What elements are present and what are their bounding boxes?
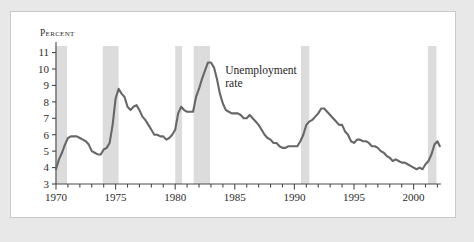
y-axis-tick-label: 9 [44, 79, 50, 91]
x-axis-tick-label: 1995 [343, 191, 366, 203]
series-annotation-line2: rate [225, 77, 242, 89]
recession-band [194, 46, 210, 184]
y-axis-tick-label: 3 [44, 178, 50, 190]
recession-band [428, 46, 437, 184]
y-axis-tick-label: 5 [44, 145, 50, 157]
x-axis-tick-label: 1990 [283, 191, 306, 203]
series-annotation-line1: Unemployment [225, 64, 297, 77]
x-axis-tick-label: 1985 [224, 191, 247, 203]
x-axis-tick-label: 2000 [403, 191, 426, 203]
x-axis-tick-label: 1970 [45, 191, 68, 203]
recession-band [301, 46, 309, 184]
unemployment-rate-chart: 34567891011 1970197519801985199019952000… [11, 12, 457, 219]
y-axis-tick-label: 8 [44, 96, 50, 108]
y-axis-title: Percent [40, 28, 75, 38]
y-axis-ticks: 34567891011 [38, 46, 56, 189]
x-axis-ticks: 1970197519801985199019952000 [45, 184, 425, 203]
recession-band [103, 46, 119, 184]
figure-card: 34567891011 1970197519801985199019952000… [10, 11, 456, 218]
x-axis-tick-label: 1975 [105, 191, 128, 203]
y-axis-tick-label: 7 [44, 112, 50, 124]
x-axis-tick-label: 1980 [164, 191, 187, 203]
y-axis-tick-label: 6 [44, 129, 50, 141]
y-axis-tick-label: 10 [38, 63, 50, 75]
y-axis-tick-label: 11 [38, 46, 49, 58]
y-axis-tick-label: 4 [44, 161, 50, 173]
chart-canvas: 34567891011 1970197519801985199019952000… [11, 12, 457, 219]
